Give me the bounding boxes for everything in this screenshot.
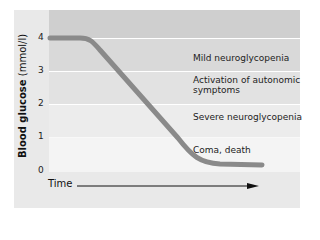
x-axis-label: Time: [48, 178, 72, 189]
glucose-curve: [50, 38, 262, 165]
time-arrow-head-icon: [247, 183, 259, 189]
